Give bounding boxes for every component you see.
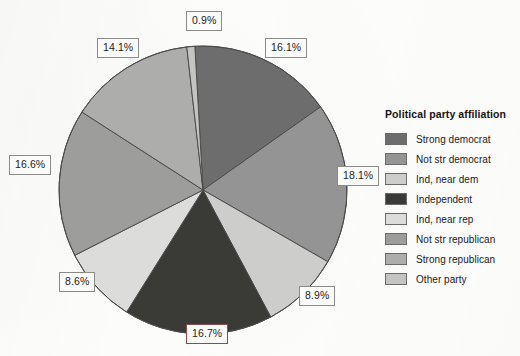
legend-item-label: Not str republican — [416, 234, 495, 245]
legend-color-swatch — [385, 153, 407, 165]
legend-item-label: Independent — [416, 194, 472, 205]
legend-color-swatch — [385, 193, 407, 205]
legend-item-list: Strong democratNot str democratInd, near… — [385, 129, 517, 289]
legend-color-swatch — [385, 173, 407, 185]
slice-label-other-party: 0.9% — [186, 11, 222, 31]
legend-item-label: Ind, near rep — [416, 214, 473, 225]
legend-item-label: Ind, near dem — [416, 174, 478, 185]
legend-item-label: Strong democrat — [416, 134, 491, 145]
slice-label-ind-near-dem: 8.9% — [299, 286, 335, 306]
legend-item: Ind, near dem — [385, 169, 517, 189]
slice-label-ind-near-rep: 8.6% — [59, 272, 95, 292]
legend-title: Political party affiliation — [385, 108, 517, 120]
legend-item: Ind, near rep — [385, 209, 517, 229]
legend-item-label: Strong republican — [416, 254, 495, 265]
slice-label-independent: 16.7% — [186, 324, 228, 344]
legend-item: Not str democrat — [385, 149, 517, 169]
pie-chart-screenshot: 16.1% 18.1% 8.9% 16.7% 8.6% 16.6% 14.1% … — [0, 0, 520, 356]
slice-label-strong-republican: 14.1% — [97, 38, 139, 58]
legend-item: Strong republican — [385, 249, 517, 269]
slice-label-not-str-democrat: 18.1% — [337, 166, 379, 186]
legend-color-swatch — [385, 213, 407, 225]
legend-item-label: Not str democrat — [416, 154, 491, 165]
legend-item: Not str republican — [385, 229, 517, 249]
legend-item: Other party — [385, 269, 517, 289]
legend-color-swatch — [385, 233, 407, 245]
slice-label-not-str-republican: 16.6% — [9, 155, 51, 175]
slice-label-strong-democrat: 16.1% — [265, 38, 307, 58]
legend-color-swatch — [385, 253, 407, 265]
legend-item: Independent — [385, 189, 517, 209]
legend-color-swatch — [385, 133, 407, 145]
legend: Political party affiliation Strong democ… — [385, 108, 517, 289]
legend-item: Strong democrat — [385, 129, 517, 149]
legend-item-label: Other party — [416, 274, 467, 285]
legend-color-swatch — [385, 273, 407, 285]
